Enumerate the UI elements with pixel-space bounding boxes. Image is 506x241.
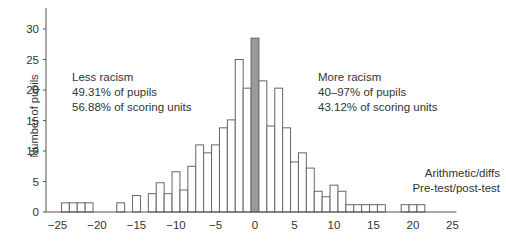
- histogram-bar: [377, 205, 385, 212]
- histogram-bar: [117, 203, 125, 212]
- histogram-bar: [156, 183, 164, 212]
- x-tick-label: −15: [127, 219, 147, 231]
- histogram-bar: [417, 205, 425, 212]
- histogram-bar: [275, 88, 283, 212]
- histogram-bar: [212, 145, 220, 212]
- x-tick-label: 15: [367, 219, 380, 231]
- histogram-bar: [61, 203, 69, 212]
- histogram-bar: [401, 205, 409, 212]
- x-tick-label: −20: [87, 219, 107, 231]
- annotation-more-title: More racism: [318, 70, 438, 85]
- histogram-bar: [259, 81, 267, 212]
- y-tick-label: 25: [26, 54, 39, 66]
- annotation-less-pupils: 49.31% of pupils: [72, 85, 192, 100]
- histogram-bar: [298, 153, 306, 212]
- histogram-bar: [188, 166, 196, 212]
- annotation-more-units: 43.12% of scoring units: [318, 100, 438, 115]
- highlight-bar: [251, 38, 259, 212]
- histogram-bar: [69, 203, 77, 212]
- histogram-bar: [354, 205, 362, 212]
- annotation-less-title: Less racism: [72, 70, 192, 85]
- histogram-bar: [180, 190, 188, 212]
- x-tick-label: 5: [291, 219, 297, 231]
- annotation-test-line1: Arithmetic/diffs: [409, 166, 500, 181]
- histogram-bar: [148, 194, 156, 212]
- histogram-bar: [291, 162, 299, 212]
- histogram-bar: [370, 205, 378, 212]
- y-tick-label: 0: [33, 206, 39, 218]
- histogram-bar: [243, 88, 251, 212]
- histogram-bar: [196, 145, 204, 212]
- histogram-bar: [77, 203, 85, 212]
- annotation-less-racism: Less racism 49.31% of pupils 56.88% of s…: [72, 70, 192, 115]
- histogram-bar: [133, 196, 141, 212]
- annotation-test-type: Arithmetic/diffs Pre-test/post-test: [409, 166, 500, 196]
- histogram-bar: [330, 185, 338, 212]
- x-tick-label: 20: [407, 219, 420, 231]
- y-axis-label: Number of pupils: [28, 66, 40, 166]
- histogram-bar: [346, 205, 354, 212]
- annotation-more-pupils: 40–97% of pupils: [318, 85, 438, 100]
- y-tick-label: 30: [26, 23, 39, 35]
- x-tick-label: −25: [48, 219, 68, 231]
- histogram-bar: [204, 153, 212, 212]
- histogram-bar: [235, 60, 243, 213]
- annotation-less-units: 56.88% of scoring units: [72, 100, 192, 115]
- histogram-bar: [283, 128, 291, 212]
- histogram-bar: [338, 191, 346, 212]
- annotation-more-racism: More racism 40–97% of pupils 43.12% of s…: [318, 70, 438, 115]
- histogram-bar: [362, 205, 370, 212]
- histogram-bar: [306, 168, 314, 212]
- histogram-bar: [227, 120, 235, 212]
- histogram-bar: [409, 205, 417, 212]
- annotation-test-line2: Pre-test/post-test: [409, 181, 500, 196]
- histogram-bar: [219, 128, 227, 212]
- histogram-bar: [314, 191, 322, 212]
- x-tick-label: 25: [446, 219, 459, 231]
- x-tick-label: 10: [328, 219, 341, 231]
- histogram-bar: [172, 172, 180, 212]
- x-tick-label: 0: [252, 219, 258, 231]
- histogram-bar: [267, 126, 275, 212]
- x-tick-label: −5: [209, 219, 222, 231]
- y-tick-label: 5: [33, 176, 39, 188]
- x-tick-label: −10: [166, 219, 186, 231]
- histogram-bar: [85, 203, 93, 212]
- histogram-bar: [164, 194, 172, 212]
- histogram-chart: 051015202530−25−20−15−10−50510152025: [0, 0, 506, 241]
- histogram-bar: [322, 197, 330, 212]
